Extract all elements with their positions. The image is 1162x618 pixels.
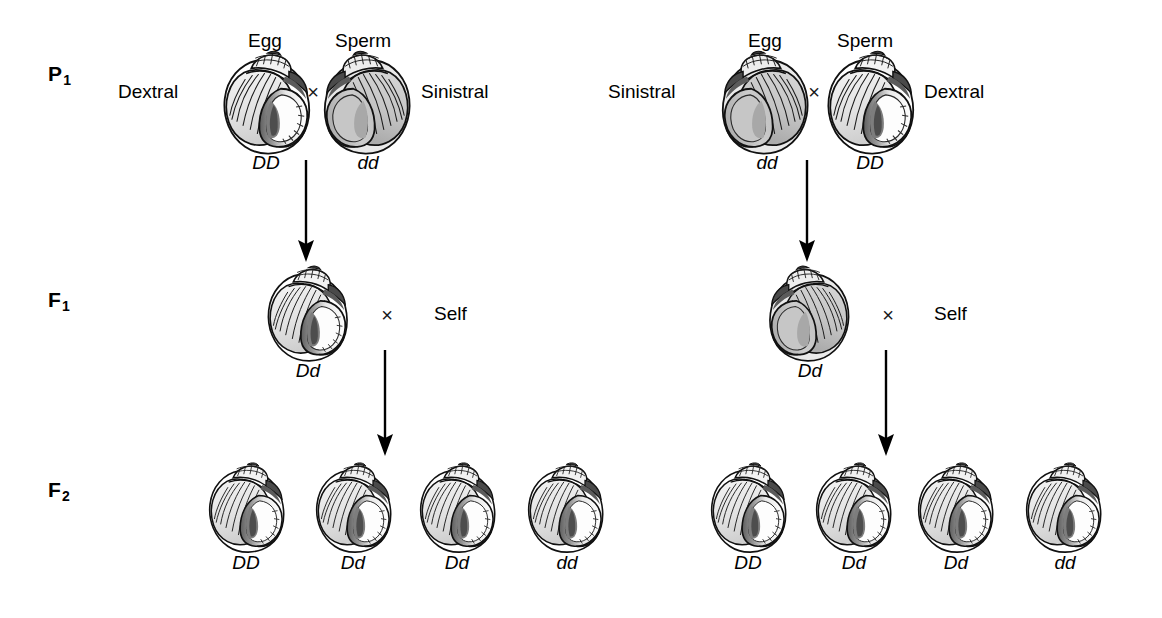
p1-egg-phenotype-label: Sinistral xyxy=(608,81,676,103)
arrow-f1-to-f2 xyxy=(866,348,906,463)
f1-cross-symbol: × xyxy=(875,305,901,325)
right-cross-group: Egg Sperm Sinistral × Dextral dd DD × Se… xyxy=(520,0,1162,618)
shell-dextral-f2-2 xyxy=(810,460,896,556)
shell-sinistral-f1 xyxy=(764,263,856,365)
shell-dextral-f2-3 xyxy=(912,460,998,556)
shell-dextral-p1-sperm xyxy=(820,48,920,158)
f1-cross-symbol: × xyxy=(374,305,400,325)
f2-genotype-4: dd xyxy=(1025,552,1105,574)
p1-egg-genotype: DD xyxy=(226,152,306,174)
p1-egg-genotype: dd xyxy=(727,152,807,174)
arrow-p1-to-f1 xyxy=(787,158,827,268)
f2-genotype-3: Dd xyxy=(916,552,996,574)
shell-dextral-f2-1 xyxy=(705,460,791,556)
snail-coiling-genetics-diagram: P1 F1 F2 Egg Sperm Dextral × Sinistral D… xyxy=(0,0,1162,618)
shell-dextral-p1-egg xyxy=(216,48,316,158)
p1-sperm-genotype: DD xyxy=(830,152,910,174)
shell-sinistral-p1-sperm xyxy=(318,48,418,158)
shell-sinistral-p1-egg xyxy=(716,48,816,158)
f1-self-label: Self xyxy=(434,303,467,325)
f1-genotype: Dd xyxy=(268,360,348,382)
shell-dextral-f1 xyxy=(261,263,353,365)
f2-genotype-3: Dd xyxy=(417,552,497,574)
p1-sperm-phenotype-label: Dextral xyxy=(924,81,984,103)
f2-genotype-1: DD xyxy=(708,552,788,574)
shell-dextral-f2-3 xyxy=(414,460,500,556)
arrow-p1-to-f1 xyxy=(286,158,326,268)
p1-sperm-phenotype-label: Sinistral xyxy=(421,81,489,103)
shell-dextral-f2-4 xyxy=(1020,460,1106,556)
f2-genotype-2: Dd xyxy=(814,552,894,574)
f1-genotype: Dd xyxy=(770,360,850,382)
shell-dextral-f2-2 xyxy=(310,460,396,556)
p1-sperm-genotype: dd xyxy=(328,152,408,174)
f2-genotype-1: DD xyxy=(206,552,286,574)
f1-self-label: Self xyxy=(934,303,967,325)
p1-egg-phenotype-label: Dextral xyxy=(118,81,178,103)
arrow-f1-to-f2 xyxy=(365,348,405,463)
f2-genotype-2: Dd xyxy=(313,552,393,574)
shell-dextral-f2-1 xyxy=(203,460,289,556)
